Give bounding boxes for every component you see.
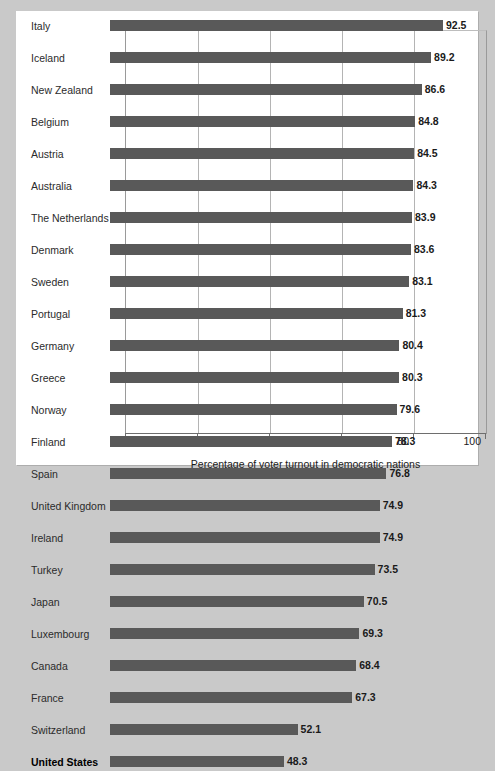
category-label: Sweden (31, 275, 105, 291)
bar-row: Greece80.3 (0, 371, 495, 387)
bar-row: Germany80.4 (0, 339, 495, 355)
category-label: Finland (31, 435, 105, 451)
bar (110, 148, 414, 159)
bar-rows: Italy92.5Iceland89.2New Zealand86.6Belgi… (0, 19, 495, 403)
bar (110, 212, 412, 223)
category-label: Spain (31, 467, 105, 483)
bar-row: Turkey73.5 (0, 563, 495, 579)
bar-value-label: 67.3 (355, 691, 375, 707)
category-label: Austria (31, 147, 105, 163)
category-label: Greece (31, 371, 105, 387)
bar (110, 468, 386, 479)
bar (110, 84, 422, 95)
bar (110, 500, 380, 511)
bar-value-label: 52.1 (301, 723, 321, 739)
category-label: Belgium (31, 115, 105, 131)
bar-value-label: 86.6 (425, 83, 445, 99)
bar-row: Denmark83.6 (0, 243, 495, 259)
bar-value-label: 48.3 (287, 755, 307, 771)
bar-row: United States48.3 (0, 755, 495, 771)
bar-value-label: 68.4 (359, 659, 379, 675)
category-label: Iceland (31, 51, 105, 67)
bar (110, 756, 284, 767)
bar-value-label: 80.4 (402, 339, 422, 355)
bar-value-label: 89.2 (434, 51, 454, 67)
bar (110, 276, 409, 287)
bar-row: Spain76.8 (0, 467, 495, 483)
bar-row: France67.3 (0, 691, 495, 707)
category-label: France (31, 691, 105, 707)
category-label: The Netherlands (31, 211, 105, 227)
bar (110, 52, 431, 63)
category-label: Ireland (31, 531, 105, 547)
bar (110, 564, 375, 575)
category-label: United Kingdom (31, 499, 105, 515)
bar-value-label: 78.3 (395, 435, 415, 451)
category-label: Turkey (31, 563, 105, 579)
bar-row: Luxembourg69.3 (0, 627, 495, 643)
bar-row: Sweden83.1 (0, 275, 495, 291)
bar (110, 692, 352, 703)
bar-value-label: 76.8 (389, 467, 409, 483)
bar-row: Australia84.3 (0, 179, 495, 195)
bar-row: Portugal81.3 (0, 307, 495, 323)
bar-row: Canada68.4 (0, 659, 495, 675)
category-label: Luxembourg (31, 627, 105, 643)
category-label: Germany (31, 339, 105, 355)
x-axis-line (125, 433, 486, 434)
bar-row: Italy92.5 (0, 19, 495, 35)
bar (110, 308, 403, 319)
bar-row: New Zealand86.6 (0, 83, 495, 99)
bar-value-label: 83.6 (414, 243, 434, 259)
bar (110, 532, 380, 543)
category-label: United States (31, 755, 105, 771)
bar-row: Switzerland52.1 (0, 723, 495, 739)
category-label: Japan (31, 595, 105, 611)
bar-value-label: 69.3 (362, 627, 382, 643)
bar (110, 116, 415, 127)
category-label: Portugal (31, 307, 105, 323)
category-label: Norway (31, 403, 105, 419)
category-label: Canada (31, 659, 105, 675)
bar-value-label: 80.3 (402, 371, 422, 387)
bar-row: United Kingdom74.9 (0, 499, 495, 515)
bar (110, 436, 392, 447)
bar-row: Ireland74.9 (0, 531, 495, 547)
bar (110, 244, 411, 255)
bar (110, 340, 399, 351)
bar-value-label: 74.9 (383, 499, 403, 515)
bar-value-label: 84.5 (417, 147, 437, 163)
bar-value-label: 70.5 (367, 595, 387, 611)
bar-value-label: 83.9 (415, 211, 435, 227)
category-label: Denmark (31, 243, 105, 259)
bar (110, 404, 397, 415)
bar-value-label: 84.8 (418, 115, 438, 131)
bar-value-label: 73.5 (378, 563, 398, 579)
bar-value-label: 79.6 (400, 403, 420, 419)
bar-row: Japan70.5 (0, 595, 495, 611)
bar-row: Norway79.6 (0, 403, 495, 419)
bar (110, 180, 413, 191)
bar (110, 628, 359, 639)
category-label: Australia (31, 179, 105, 195)
bar-value-label: 83.1 (412, 275, 432, 291)
bar (110, 372, 399, 383)
category-label: Switzerland (31, 723, 105, 739)
bar-row: Finland78.3 (0, 435, 495, 451)
bar-row: Belgium84.8 (0, 115, 495, 131)
category-label: Italy (31, 19, 105, 35)
bar (110, 724, 298, 735)
category-label: New Zealand (31, 83, 105, 99)
bar-row: The Netherlands83.9 (0, 211, 495, 227)
bar-value-label: 84.3 (416, 179, 436, 195)
bar-row: Iceland89.2 (0, 51, 495, 67)
bar (110, 20, 443, 31)
bar (110, 660, 356, 671)
bar-row: Austria84.5 (0, 147, 495, 163)
bar-value-label: 92.5 (446, 19, 466, 35)
bar-value-label: 81.3 (406, 307, 426, 323)
bar-value-label: 74.9 (383, 531, 403, 547)
bar (110, 596, 364, 607)
